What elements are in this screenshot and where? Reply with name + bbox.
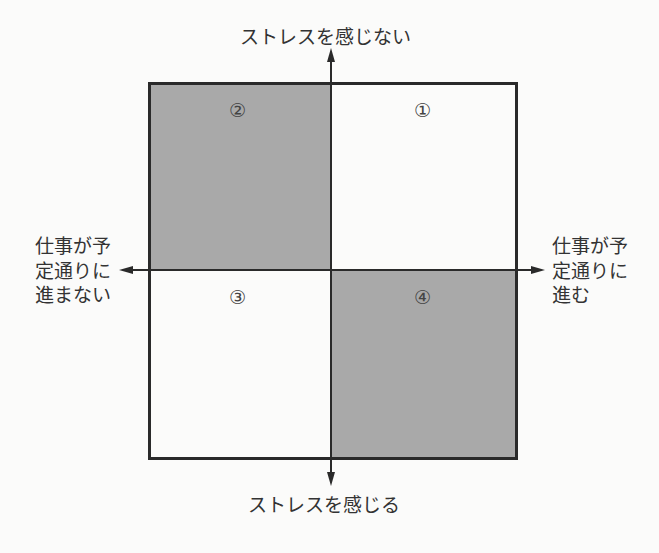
left-axis-line-3: 進まない [35, 283, 111, 308]
arrow-down-icon [327, 472, 335, 486]
quadrant-2-label: ② [229, 101, 246, 120]
quadrant-4-label: ④ [414, 288, 431, 307]
right-axis-label: 仕事が予 定通りに 進む [552, 234, 628, 308]
quadrant-1-label: ① [414, 101, 431, 120]
left-axis-line-1: 仕事が予 [35, 234, 111, 259]
right-axis-line-1: 仕事が予 [552, 234, 628, 259]
arrow-left-icon [119, 266, 133, 274]
right-axis-line-3: 進む [552, 283, 628, 308]
top-axis-label: ストレスを感じない [240, 25, 411, 50]
left-axis-label: 仕事が予 定通りに 進まない [35, 234, 111, 308]
quadrant-3-label: ③ [229, 288, 246, 307]
right-axis-line-2: 定通りに [552, 259, 628, 284]
arrow-up-icon [327, 48, 335, 62]
left-axis-line-2: 定通りに [35, 259, 111, 284]
arrow-right-icon [531, 266, 545, 274]
bottom-axis-label: ストレスを感じる [248, 493, 400, 518]
